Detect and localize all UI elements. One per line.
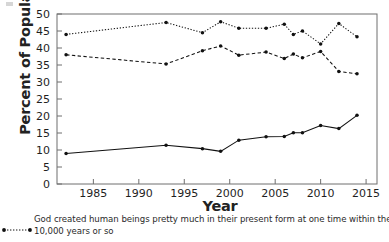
y-tick-label: 35 [36, 59, 50, 72]
data-point-marker [64, 33, 68, 37]
y-tick-label: 50 [36, 8, 50, 21]
data-point-marker [337, 22, 341, 26]
y-tick-label: 20 [36, 110, 50, 123]
chart-legend: God created human beings pretty much in … [0, 214, 389, 242]
legend-entry-line-1: God created human beings pretty much in … [34, 214, 387, 226]
data-point-marker [283, 57, 287, 61]
data-point-marker [264, 50, 268, 54]
chart-figure: Percent of Population 051015202530354045… [0, 0, 389, 242]
data-point-marker [219, 150, 223, 154]
data-point-marker [301, 29, 305, 33]
data-point-marker [201, 147, 205, 151]
y-tick-label: 0 [43, 178, 50, 191]
data-point-marker [64, 152, 68, 156]
data-point-marker [264, 27, 268, 31]
data-point-marker [64, 53, 68, 57]
axis-frame [57, 14, 377, 184]
data-point-marker [301, 131, 305, 135]
y-tick-label: 40 [36, 42, 50, 55]
data-series-0 [64, 20, 358, 46]
data-point-marker [319, 42, 323, 46]
series-line [66, 46, 357, 74]
data-point-marker [355, 35, 359, 39]
data-point-marker [264, 135, 268, 139]
series-line [66, 115, 357, 153]
x-axis-title: Year [55, 198, 385, 214]
data-point-marker [355, 72, 359, 76]
data-point-marker [355, 114, 359, 118]
data-point-marker [292, 52, 296, 56]
data-point-marker [164, 62, 168, 65]
y-tick-label: 25 [36, 93, 50, 106]
y-tick-label: 10 [36, 144, 50, 157]
data-series-layer [64, 20, 358, 155]
data-point-marker [292, 131, 296, 135]
data-point-marker [301, 56, 305, 60]
legend-line-marker-icon [2, 226, 32, 234]
data-point-marker [292, 33, 296, 37]
data-point-marker [337, 127, 341, 131]
legend-entry-text: God created human beings pretty much in … [34, 214, 387, 237]
data-point-marker [237, 138, 241, 142]
series-line [66, 22, 357, 44]
data-series-1 [64, 44, 358, 75]
data-point-marker [164, 21, 168, 25]
y-tick-label: 5 [43, 161, 50, 174]
legend-entry-line-2: 10,000 years or so [34, 226, 387, 238]
data-point-marker [337, 70, 341, 74]
data-point-marker [237, 27, 241, 31]
data-point-marker [319, 50, 323, 54]
data-point-marker [219, 20, 223, 24]
y-tick-label: 15 [36, 127, 50, 140]
y-tick-label: 45 [36, 25, 50, 38]
data-point-marker [283, 135, 287, 139]
data-series-2 [64, 114, 358, 156]
data-point-marker [201, 31, 205, 35]
y-axis-ticks: 05101520253035404550 [36, 8, 62, 191]
data-point-marker [283, 22, 287, 26]
data-point-marker [219, 44, 223, 48]
y-tick-label: 30 [36, 76, 50, 89]
data-point-marker [319, 124, 323, 128]
data-point-marker [201, 49, 205, 53]
data-point-marker [237, 53, 241, 57]
x-axis-ticks: 1985199019952000200520102015 [79, 179, 380, 200]
data-point-marker [164, 143, 168, 147]
